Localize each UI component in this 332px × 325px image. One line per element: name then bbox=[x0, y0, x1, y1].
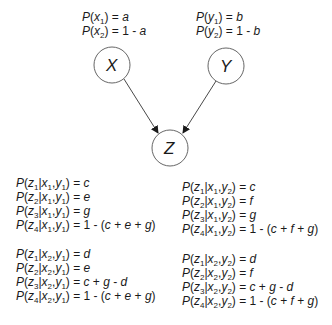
cpt-x2-y1: P(z1|x2,y1) = dP(z2|x2,y1) = eP(z3|x2,y1… bbox=[16, 247, 156, 303]
cpt-x2-y2: P(z1|x2,y2) = dP(z2|x2,y2) = fP(z3|x2,y2… bbox=[182, 252, 318, 308]
probability-line: P(x1) = a bbox=[82, 10, 146, 24]
probability-line: P(z4|x2,y2) = 1 - (c + f + g) bbox=[182, 294, 318, 308]
probability-line: P(z3|x2,y1) = c + g - d bbox=[16, 275, 156, 289]
probability-line: P(z2|x2,y2) = f bbox=[182, 266, 318, 280]
probability-line: P(z1|x2,y2) = d bbox=[182, 252, 318, 266]
probability-line: P(z3|x1,y1) = g bbox=[16, 204, 156, 218]
probability-line: P(y1) = b bbox=[196, 10, 260, 24]
probability-line: P(z3|x2,y2) = c + g - d bbox=[182, 280, 318, 294]
probability-line: P(z1|x2,y1) = d bbox=[16, 247, 156, 261]
node-y-label: Y bbox=[220, 57, 233, 76]
edge-x-to-z bbox=[124, 79, 158, 133]
cpt-x1-y2: P(z1|x1,y2) = cP(z2|x1,y2) = fP(z3|x1,y2… bbox=[182, 180, 318, 236]
prior-y: P(y1) = bP(y2) = 1 - b bbox=[196, 10, 260, 38]
probability-line: P(y2) = 1 - b bbox=[196, 24, 260, 38]
probability-line: P(z4|x2,y1) = 1 - (c + e + g) bbox=[16, 289, 156, 303]
probability-line: P(z4|x1,y1) = 1 - (c + e + g) bbox=[16, 218, 156, 232]
node-z-label: Z bbox=[163, 139, 175, 158]
edge-y-to-z bbox=[183, 81, 216, 133]
probability-line: P(x2) = 1 - a bbox=[82, 24, 146, 38]
cpt-x1-y1: P(z1|x1,y1) = cP(z2|x1,y1) = eP(z3|x1,y1… bbox=[16, 176, 156, 232]
prior-x: P(x1) = aP(x2) = 1 - a bbox=[82, 10, 146, 38]
probability-line: P(z2|x1,y2) = f bbox=[182, 194, 318, 208]
probability-line: P(z2|x1,y1) = e bbox=[16, 190, 156, 204]
probability-line: P(z3|x1,y2) = g bbox=[182, 208, 318, 222]
probability-line: P(z4|x1,y2) = 1 - (c + f + g) bbox=[182, 222, 318, 236]
probability-line: P(z1|x1,y1) = c bbox=[16, 176, 156, 190]
node-x-label: X bbox=[105, 56, 118, 75]
probability-line: P(z2|x2,y1) = e bbox=[16, 261, 156, 275]
probability-line: P(z1|x1,y2) = c bbox=[182, 180, 318, 194]
